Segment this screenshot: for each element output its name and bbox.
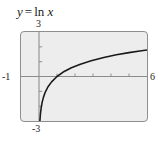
title-variable-y: y xyxy=(17,4,23,19)
y-axis-bottom-label: -3 xyxy=(32,124,40,134)
plot-svg xyxy=(21,32,147,121)
figure-container: y=ln x 3 -3 -1 6 xyxy=(0,0,158,141)
title-function-ln: ln xyxy=(34,4,44,19)
title-variable-x: x xyxy=(48,4,54,19)
graph-viewing-window xyxy=(20,31,148,122)
axes-group xyxy=(21,32,147,121)
figure-title: y=ln x xyxy=(17,4,53,19)
ln-curve xyxy=(40,50,147,121)
y-axis-top-label: 3 xyxy=(36,19,41,29)
x-axis-left-label: -1 xyxy=(2,72,10,82)
title-equals-sign: = xyxy=(23,4,34,19)
plot-surface xyxy=(21,32,147,121)
x-axis-right-label: 6 xyxy=(150,72,155,82)
